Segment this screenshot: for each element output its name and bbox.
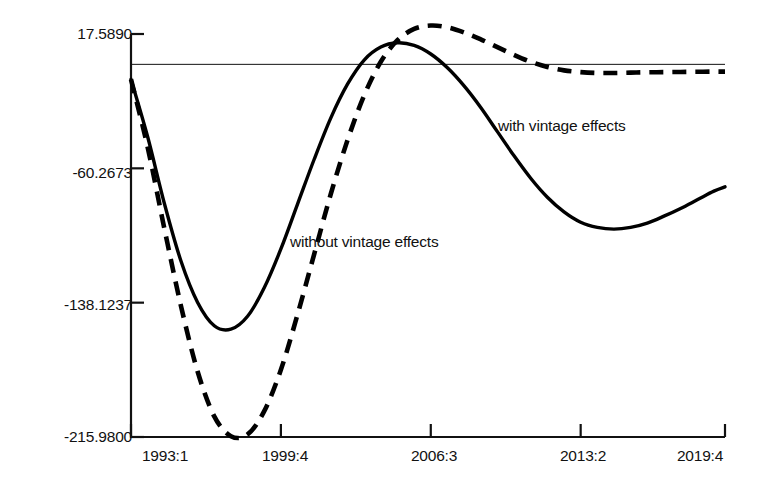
- annotation-with-vintage-effects: with vintage effects: [498, 117, 626, 135]
- x-tick-label-4: 2019:4: [677, 447, 723, 465]
- y-axis-ticks: [131, 34, 144, 437]
- series-line-with-vintage-effects: [131, 43, 725, 330]
- x-tick-label-2: 2006:3: [411, 447, 457, 465]
- y-tick-label-1: -60.2673: [72, 164, 132, 182]
- y-tick-label-0: 17.5890: [77, 25, 132, 43]
- x-tick-label-1: 1999:4: [262, 447, 308, 465]
- x-tick-label-0: 1993:1: [142, 447, 188, 465]
- x-tick-label-3: 2013:2: [560, 447, 606, 465]
- series-line-without-vintage-effects: [131, 25, 725, 438]
- annotation-without-vintage-effects: without vintage effects: [290, 233, 439, 251]
- y-tick-label-2: -138.1237: [64, 296, 132, 314]
- y-tick-label-3: -215.9800: [64, 428, 132, 446]
- chart-figure: 17.5890 -60.2673 -138.1237 -215.9800 199…: [0, 0, 780, 497]
